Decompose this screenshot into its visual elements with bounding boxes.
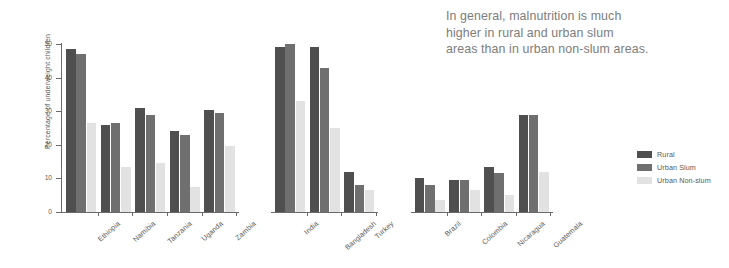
bar-india-urban-non-slum xyxy=(296,101,306,212)
y-tick-0 xyxy=(56,212,61,213)
x-tick-zambia xyxy=(236,213,237,216)
bar-nicaragua-urban-non-slum xyxy=(505,195,515,212)
bar-nicaragua-urban-slum xyxy=(494,173,504,212)
bar-uganda-rural xyxy=(170,131,180,212)
x-axis-label-guatemala: Guatemala xyxy=(551,219,584,250)
x-tick-nicaragua xyxy=(516,213,517,216)
bar-colombia-urban-slum xyxy=(460,180,470,212)
bar-guatemala-rural xyxy=(519,115,529,212)
y-tick-20 xyxy=(56,145,61,146)
chart-annotation: In general, malnutrition is much higher … xyxy=(446,8,716,58)
x-axis-label-colombia: Colombia xyxy=(480,219,509,247)
x-tick-colombia xyxy=(481,213,482,216)
bar-brazil-rural xyxy=(415,178,425,212)
legend-item-urban-slum[interactable]: Urban Slum xyxy=(637,161,711,174)
legend-swatch-icon xyxy=(637,151,652,158)
x-axis-label-tanzania: Tanzania xyxy=(166,219,194,245)
bar-tanzania-urban-non-slum xyxy=(156,163,166,212)
bar-uganda-urban-slum xyxy=(180,135,190,212)
bar-namibia-urban-non-slum xyxy=(121,167,131,212)
bar-nicaragua-rural xyxy=(484,167,494,212)
x-axis-label-turkey: Turkey xyxy=(373,219,396,241)
bar-namibia-rural xyxy=(101,125,111,212)
bar-zambia-urban-non-slum xyxy=(225,146,235,212)
bar-guatemala-urban-non-slum xyxy=(539,172,549,212)
y-tick-30 xyxy=(56,111,61,112)
x-axis-label-ethiopia: Ethiopia xyxy=(96,219,122,244)
legend-label: Rural xyxy=(657,150,675,159)
x-axis-label-uganda: Uganda xyxy=(199,219,224,243)
x-axis-label-nicaragua: Nicaragua xyxy=(516,219,547,248)
bar-ethiopia-urban-non-slum xyxy=(87,123,97,212)
legend-item-urban-non-slum[interactable]: Urban Non-slum xyxy=(637,174,711,187)
x-axis-baseline-group-1 xyxy=(62,212,239,213)
x-tick-tanzania xyxy=(167,213,168,216)
x-axis-label-brazil: Brazil xyxy=(443,219,463,238)
x-tick-brazil xyxy=(447,213,448,216)
bar-ethiopia-rural xyxy=(66,49,76,212)
bar-turkey-rural xyxy=(344,172,354,212)
x-tick-india xyxy=(307,213,308,216)
x-axis-label-bangladesh: Bangladesh xyxy=(343,219,378,252)
x-tick-uganda xyxy=(202,213,203,216)
bar-tanzania-rural xyxy=(135,108,145,212)
bar-zambia-rural xyxy=(204,110,214,212)
bar-india-rural xyxy=(275,47,285,212)
annotation-line-1: In general, malnutrition is much xyxy=(446,8,716,25)
bar-bangladesh-rural xyxy=(310,47,320,212)
x-axis-label-india: India xyxy=(302,219,320,236)
bar-brazil-urban-non-slum xyxy=(435,200,445,212)
legend-label: Urban Non-slum xyxy=(657,176,711,185)
bar-colombia-urban-non-slum xyxy=(470,190,480,212)
bar-ethiopia-urban-slum xyxy=(76,54,86,212)
bar-bangladesh-urban-non-slum xyxy=(330,128,340,212)
x-axis-baseline-group-2 xyxy=(271,212,378,213)
y-axis-title: Percentage of underweight children xyxy=(44,17,51,167)
x-tick-bangladesh xyxy=(341,213,342,216)
bar-tanzania-urban-slum xyxy=(146,115,156,212)
bar-uganda-urban-non-slum xyxy=(190,187,200,212)
y-tick-label-0: 0 xyxy=(22,208,52,215)
bar-bangladesh-urban-slum xyxy=(320,68,330,212)
y-axis-line xyxy=(61,43,62,213)
legend-swatch-icon xyxy=(637,164,652,171)
bar-india-urban-slum xyxy=(285,44,295,212)
chart-legend: RuralUrban SlumUrban Non-slum xyxy=(637,148,711,187)
x-tick-ethiopia xyxy=(98,213,99,216)
legend-swatch-icon xyxy=(637,177,652,184)
legend-label: Urban Slum xyxy=(657,163,696,172)
bar-colombia-rural xyxy=(449,180,459,212)
legend-item-rural[interactable]: Rural xyxy=(637,148,711,161)
x-axis-baseline-group-3 xyxy=(411,212,553,213)
bar-turkey-urban-non-slum xyxy=(365,190,375,212)
bar-turkey-urban-slum xyxy=(355,185,365,212)
annotation-line-2: higher in rural and urban slum xyxy=(446,25,716,42)
x-tick-namibia xyxy=(132,213,133,216)
x-tick-turkey xyxy=(376,213,377,216)
bar-zambia-urban-slum xyxy=(215,113,225,212)
bar-guatemala-urban-slum xyxy=(529,115,539,212)
y-tick-40 xyxy=(56,78,61,79)
annotation-line-3: areas than in urban non-slum areas. xyxy=(446,41,716,58)
chart-container: In general, malnutrition is much higher … xyxy=(0,0,729,268)
y-tick-10 xyxy=(56,178,61,179)
y-tick-label-10: 10 xyxy=(22,174,52,181)
x-axis-label-namibia: Namibia xyxy=(131,219,157,244)
y-tick-50 xyxy=(56,44,61,45)
bar-namibia-urban-slum xyxy=(111,123,121,212)
x-tick-guatemala xyxy=(550,213,551,216)
bar-brazil-urban-slum xyxy=(425,185,435,212)
x-axis-label-zambia: Zambia xyxy=(234,219,258,242)
